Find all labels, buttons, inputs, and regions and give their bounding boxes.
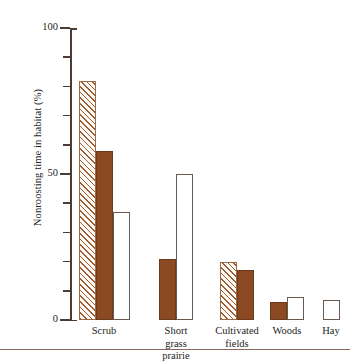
x-axis-category-label-line: Hay (286, 325, 350, 338)
y-axis-tick-label: 0 (18, 314, 58, 325)
y-axis-minor-tick (63, 115, 70, 117)
y-axis-minor-tick (63, 261, 70, 263)
y-axis-minor-tick (63, 86, 70, 88)
bar (159, 259, 176, 320)
y-axis-minor-tick (63, 202, 70, 204)
plot-area (71, 28, 343, 320)
bar (79, 81, 96, 320)
y-axis-tick-label: 50 (18, 168, 58, 179)
bottom-divider-rule (0, 349, 350, 350)
bar-group (159, 28, 193, 320)
bar (270, 302, 287, 320)
bar-group (79, 28, 130, 320)
y-axis-minor-tick (63, 232, 70, 234)
y-axis-minor-tick (63, 290, 70, 292)
y-axis-minor-tick (63, 56, 70, 58)
bar (113, 212, 130, 320)
bar (237, 270, 254, 320)
bar-group (270, 28, 304, 320)
bar (220, 262, 237, 320)
x-axis-category-label: Hay (286, 325, 350, 338)
y-axis-major-tick (60, 27, 70, 29)
y-axis-tick-label: 100 (18, 22, 58, 33)
bar (176, 174, 193, 320)
bar-group (323, 28, 340, 320)
bar (287, 297, 304, 320)
x-axis-category-label-line: prairie (131, 350, 221, 363)
bar (323, 300, 340, 320)
y-axis-minor-tick (63, 144, 70, 146)
y-axis-major-tick (60, 319, 70, 321)
bar-group (220, 28, 254, 320)
y-axis-title: Nonroosting time in habitat (%) (32, 43, 43, 273)
y-axis-major-tick (60, 173, 70, 175)
bar (96, 151, 113, 320)
